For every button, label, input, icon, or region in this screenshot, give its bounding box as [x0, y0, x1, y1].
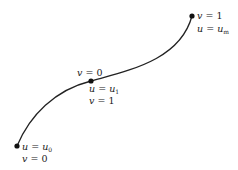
sub: 1 — [115, 88, 119, 95]
val: 1 — [216, 10, 222, 21]
parametric-curve — [17, 16, 192, 146]
start-point — [14, 143, 19, 148]
middle-label-above: v = 0 — [77, 67, 102, 78]
eq: = — [202, 10, 216, 21]
eq: = — [95, 83, 109, 94]
end-point — [189, 13, 194, 18]
middle-label-v: v = 1 — [89, 95, 114, 106]
val: 1 — [108, 95, 114, 106]
val: 0 — [96, 67, 102, 78]
eq: = — [28, 141, 42, 152]
end-label-v: v = 1 — [197, 10, 222, 21]
start-label-v: v = 0 — [22, 153, 47, 164]
eq: = — [27, 153, 41, 164]
sub: m — [223, 28, 229, 35]
val: 0 — [41, 153, 47, 164]
eq: = — [94, 95, 108, 106]
sub: 0 — [48, 146, 52, 153]
end-label-u: u = um — [197, 23, 229, 37]
eq: = — [203, 23, 217, 34]
eq: = — [82, 67, 96, 78]
